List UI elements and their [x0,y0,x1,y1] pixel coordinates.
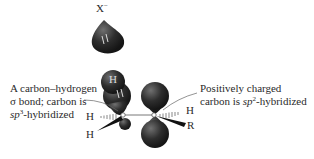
orbital-hydrogen-label: H [109,73,117,86]
orbital-drawing [0,0,314,159]
right-dashed-wedge [160,112,178,118]
nucleophile-lone-pair-orbital [92,20,124,53]
left-annotation-line3: sp3-hybridized [10,108,74,121]
left-hydrogen-top: H [86,110,94,123]
nucleophile-label: X− [96,2,108,15]
left-hydrogen-bottom: H [86,128,94,141]
left-annotation-line2: σ bond; carbon is [10,95,87,108]
sp2-carbon [152,113,156,117]
left-annotation-line1: A carbon–hydrogen [10,82,97,95]
right-annotation-line1: Positively charged [200,82,281,95]
right-r-group: R [187,119,194,132]
right-hydrogen: H [186,104,194,117]
sp3-carbon [121,113,125,117]
diagram-canvas: X− H A carbon–hydrogen σ bond; carbon is… [0,0,314,159]
right-annotation-line2: carbon is sp2-hybridized [200,95,307,108]
left-dashed-wedge [101,114,116,120]
